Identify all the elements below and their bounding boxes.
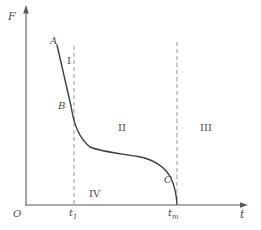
tick-t1-label: t1	[69, 207, 78, 221]
region-4-label: IV	[89, 188, 101, 199]
point-a-label: A	[49, 35, 57, 46]
y-axis-arrowhead-icon	[23, 5, 29, 14]
x-axis-label: t	[240, 208, 245, 221]
region-2-label: II	[118, 122, 126, 133]
force-time-curve-figure: F t O A B C t1 tm I II III IV	[0, 0, 261, 230]
x-axis-arrowhead-icon	[240, 202, 248, 208]
figure-canvas: F t O A B C t1 tm I II III IV	[0, 0, 261, 230]
region-3-label: III	[200, 122, 212, 133]
y-axis-label: F	[7, 10, 16, 23]
region-1-label: I	[67, 55, 71, 66]
tick-tm-label: tm	[168, 207, 179, 221]
origin-label: O	[13, 208, 21, 219]
point-b-label: B	[57, 100, 65, 111]
force-curve	[57, 45, 177, 204]
point-c-label: C	[164, 174, 172, 185]
